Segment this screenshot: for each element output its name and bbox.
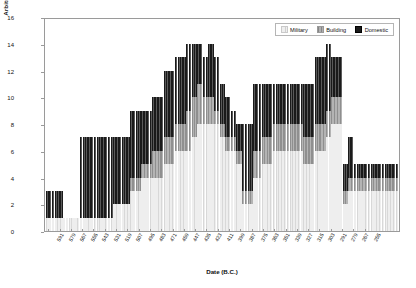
- x-tick-label: 291: [338, 232, 348, 242]
- x-tick-mark: [127, 229, 128, 232]
- x-tick-label: 567: [78, 232, 88, 242]
- bar-column: [396, 19, 398, 231]
- x-tick-label: 411: [225, 232, 234, 242]
- x-tick-label: 339: [293, 232, 303, 242]
- legend-swatch-military-icon: [281, 26, 288, 33]
- x-tick-mark: [195, 229, 196, 232]
- x-tick-label: 507: [135, 232, 145, 242]
- y-tick-label: 2: [0, 202, 14, 208]
- x-tick-mark: [342, 229, 343, 232]
- x-tick-label: 519: [123, 232, 133, 242]
- x-tick-label: 531: [112, 232, 122, 242]
- bar-segment-domestic: [396, 164, 398, 177]
- legend-swatch-domestic-icon: [355, 26, 362, 33]
- bar-segment-building: [396, 178, 398, 191]
- x-tick-label: 279: [349, 232, 359, 242]
- x-tick-label: 543: [101, 232, 111, 242]
- x-tick-mark: [286, 229, 287, 232]
- x-tick-mark: [161, 229, 162, 232]
- x-tick-label: 303: [327, 232, 337, 242]
- x-tick-mark: [218, 229, 219, 232]
- x-tick-mark: [82, 229, 83, 232]
- x-tick-mark: [365, 229, 366, 232]
- bar-series-container: [45, 19, 399, 231]
- x-tick-label: 351: [282, 232, 292, 242]
- x-tick-mark: [173, 229, 174, 232]
- x-tick-mark: [71, 229, 72, 232]
- x-tick-mark: [206, 229, 207, 232]
- y-tick-label: 8: [0, 122, 14, 128]
- x-tick-label: 447: [191, 232, 201, 242]
- y-tick-mark: [41, 98, 44, 99]
- y-tick-mark: [41, 45, 44, 46]
- x-tick-mark: [353, 229, 354, 232]
- legend-label-domestic: Domestic: [365, 27, 388, 33]
- x-tick-mark: [150, 229, 151, 232]
- bar-segment-military: [396, 191, 398, 231]
- x-tick-label: 471: [169, 232, 179, 242]
- y-tick-label: 14: [0, 42, 14, 48]
- x-tick-mark: [319, 229, 320, 232]
- x-tick-label: 459: [180, 232, 190, 242]
- legend-label-building: Building: [326, 27, 346, 33]
- x-tick-mark: [240, 229, 241, 232]
- plot-area: Military Building Domestic: [44, 18, 400, 232]
- x-tick-label: 579: [67, 232, 77, 242]
- y-tick-mark: [41, 125, 44, 126]
- x-tick-label: 315: [316, 232, 326, 242]
- x-tick-mark: [184, 229, 185, 232]
- x-tick-label: 399: [236, 232, 246, 242]
- y-tick-label: 4: [0, 176, 14, 182]
- x-tick-mark: [93, 229, 94, 232]
- x-tick-mark: [263, 229, 264, 232]
- y-tick-mark: [41, 179, 44, 180]
- x-tick-mark: [274, 229, 275, 232]
- legend-item-domestic: Domestic: [355, 26, 388, 33]
- x-axis-title: Date (B.C.): [44, 268, 400, 275]
- x-tick-label: 255: [372, 232, 382, 242]
- y-tick-label: 10: [0, 95, 14, 101]
- x-tick-label: 387: [248, 232, 258, 242]
- legend-swatch-building-icon: [317, 26, 324, 33]
- x-axis-ticks: 5915795675555435315195074954834714594474…: [44, 232, 400, 266]
- y-tick-label: 6: [0, 149, 14, 155]
- y-tick-mark: [41, 152, 44, 153]
- x-tick-label: 423: [214, 232, 224, 242]
- y-tick-label: 12: [0, 69, 14, 75]
- legend-item-building: Building: [317, 26, 346, 33]
- chart-figure: Arbitrary 15-point scale Military Buildi…: [0, 0, 416, 288]
- x-tick-label: 495: [146, 232, 156, 242]
- x-tick-label: 375: [259, 232, 269, 242]
- x-tick-mark: [48, 229, 49, 232]
- y-tick-mark: [41, 72, 44, 73]
- x-tick-label: 363: [270, 232, 280, 242]
- x-tick-mark: [331, 229, 332, 232]
- x-tick-mark: [139, 229, 140, 232]
- y-tick-label: 16: [0, 15, 14, 21]
- y-tick-label: 0: [0, 229, 14, 235]
- x-tick-label: 267: [361, 232, 371, 242]
- x-tick-label: 435: [202, 232, 212, 242]
- x-tick-label: 591: [56, 232, 66, 242]
- y-tick-mark: [41, 205, 44, 206]
- x-tick-label: 327: [304, 232, 314, 242]
- x-tick-mark: [116, 229, 117, 232]
- legend-label-military: Military: [290, 27, 308, 33]
- x-tick-mark: [252, 229, 253, 232]
- x-tick-mark: [105, 229, 106, 232]
- x-tick-mark: [60, 229, 61, 232]
- x-tick-mark: [297, 229, 298, 232]
- x-tick-mark: [308, 229, 309, 232]
- x-tick-label: 555: [89, 232, 99, 242]
- y-tick-mark: [41, 18, 44, 19]
- x-tick-mark: [229, 229, 230, 232]
- x-tick-label: 483: [157, 232, 167, 242]
- legend-item-military: Military: [281, 26, 308, 33]
- chart-legend: Military Building Domestic: [275, 23, 394, 36]
